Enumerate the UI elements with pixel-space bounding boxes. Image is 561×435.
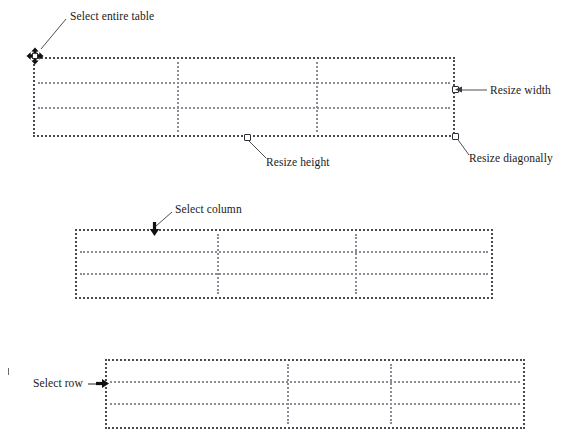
four-way-arrow-icon[interactable] [24, 47, 46, 69]
table-column-divider [177, 62, 179, 132]
table-column-selection[interactable] [75, 229, 493, 299]
page-edge-tick [8, 368, 9, 375]
resize-height-handle[interactable] [244, 134, 251, 141]
table-grid [77, 231, 491, 297]
table-entire-selection[interactable] [33, 57, 455, 137]
figure-canvas: Select entire table Resize width Resize … [0, 0, 561, 435]
label-resize-width: Resize width [490, 84, 551, 97]
table-grid [35, 59, 453, 135]
label-select-column: Select column [175, 203, 242, 216]
label-resize-diagonally: Resize diagonally [469, 152, 553, 165]
resize-width-arrowhead [455, 85, 469, 97]
move-table-icon[interactable] [24, 47, 46, 69]
table-grid [107, 361, 523, 427]
select-row-arrow-icon[interactable] [96, 377, 112, 391]
table-row-divider [110, 381, 520, 383]
table-row-divider [38, 82, 450, 84]
table-row-selection[interactable] [105, 359, 525, 429]
resize-diagonal-handle[interactable] [452, 133, 459, 140]
table-row-divider [110, 403, 520, 405]
label-resize-height: Resize height [266, 156, 330, 169]
label-select-entire-table: Select entire table [70, 10, 154, 23]
table-column-divider [287, 364, 289, 424]
select-column-arrow-icon[interactable] [149, 222, 163, 238]
table-column-divider [316, 62, 318, 132]
table-column-divider [217, 234, 219, 294]
table-column-divider [390, 364, 392, 424]
table-row-divider [38, 107, 450, 109]
table-column-divider [355, 234, 357, 294]
table-row-divider [80, 251, 488, 253]
label-select-row: Select row [33, 377, 83, 390]
table-row-divider [80, 273, 488, 275]
